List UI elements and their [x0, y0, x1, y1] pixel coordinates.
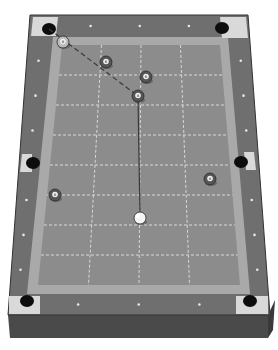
rail-diamond: [19, 268, 22, 271]
rail-diamond: [188, 25, 191, 28]
rail-diamond: [137, 303, 140, 306]
rail-diamond: [31, 129, 34, 132]
pool-table-scene: 866888: [0, 0, 278, 350]
pocket-bottom-left: [20, 295, 34, 307]
pocket-middle-left: [26, 157, 40, 169]
rail-diamond: [77, 303, 80, 306]
rail-diamond: [22, 234, 25, 237]
rail-diamond: [37, 60, 40, 63]
ball-body: [134, 212, 146, 224]
rail-diamond: [25, 199, 28, 202]
rail-diamond: [34, 94, 37, 97]
pocket-top-right: [215, 22, 229, 34]
rail-diamond: [250, 199, 253, 202]
rail-diamond: [253, 234, 256, 237]
rail-diamond: [242, 94, 245, 97]
rail-diamond: [239, 60, 242, 63]
rail-diamond: [89, 25, 92, 28]
rail-diamond: [256, 268, 259, 271]
pocket-middle-right: [234, 156, 248, 168]
ball-highlight: [136, 214, 140, 218]
rail-diamond: [198, 303, 201, 306]
rail-diamond: [245, 129, 248, 132]
frame-front-side: [8, 315, 270, 338]
rail-diamond: [138, 25, 141, 28]
pocket-bottom-right: [243, 295, 257, 307]
